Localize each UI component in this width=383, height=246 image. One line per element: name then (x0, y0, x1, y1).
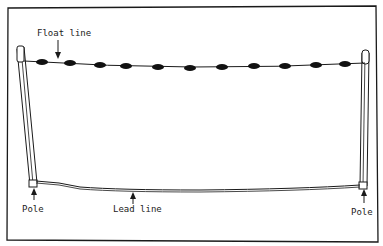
floats (36, 59, 351, 71)
right-pole (359, 50, 369, 189)
lead-line-arrow-icon (130, 192, 136, 204)
lead-line-label: Lead line (113, 204, 162, 214)
left-pole (17, 46, 37, 187)
left-pole-arrow-icon (31, 188, 37, 200)
right-pole-label: Pole (351, 207, 373, 217)
frame-border (7, 6, 378, 242)
right-pole-arrow-icon (361, 189, 367, 203)
float-line-arrow-icon (55, 40, 61, 59)
lead-line (36, 181, 360, 190)
float-line-label: Float line (37, 28, 91, 38)
left-pole-label: Pole (22, 204, 44, 214)
net-diagram: Float line Pole Lead line Pole (0, 0, 383, 246)
